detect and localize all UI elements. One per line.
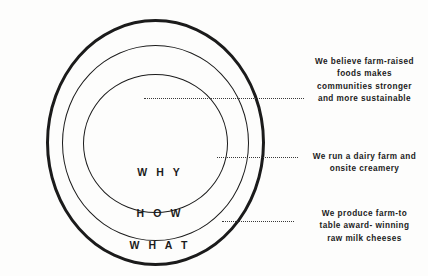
annotation-what-line-1: We produce farm-to <box>303 208 426 220</box>
leader-line-how <box>217 157 298 158</box>
leader-line-what <box>222 221 294 222</box>
annotation-why-line-1: We believe farm-raised <box>303 56 426 68</box>
annotation-why-line-4: and more sustainable <box>303 93 426 105</box>
leader-line-why <box>144 98 304 99</box>
annotation-why-line-3: communities stronger <box>303 81 426 93</box>
ring-why-circle <box>83 74 228 213</box>
annotation-what: We produce farm-to table award- winning … <box>303 208 426 245</box>
annotation-how: We run a dairy farm and onsite creamery <box>303 151 426 176</box>
ring-label-how: H O W <box>0 207 320 219</box>
annotation-why: We believe farm-raised foods makes commu… <box>303 56 426 106</box>
annotation-how-line-1: We run a dairy farm and <box>303 151 426 163</box>
annotation-what-line-3: raw milk cheeses <box>303 233 426 245</box>
ring-label-what: W H A T <box>0 239 320 251</box>
ring-label-why: W H Y <box>0 166 320 178</box>
annotation-how-line-2: onsite creamery <box>303 163 426 175</box>
annotation-what-line-2: table award- winning <box>303 220 426 232</box>
golden-circle-diagram: W H Y H O W W H A T We believe farm-rais… <box>0 0 428 276</box>
annotation-why-line-2: foods makes <box>303 68 426 80</box>
